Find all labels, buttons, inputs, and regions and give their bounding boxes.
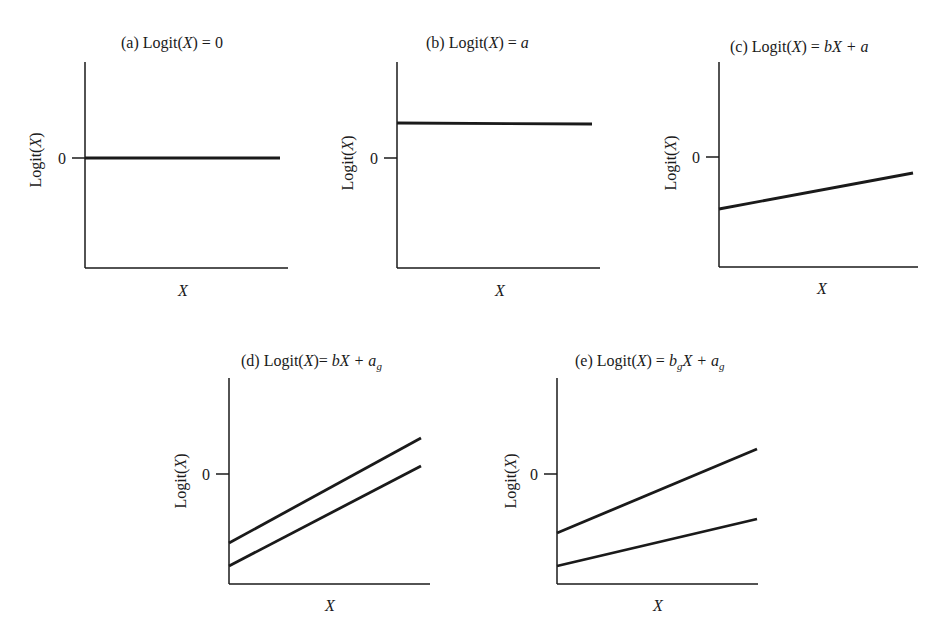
series-line <box>397 123 592 124</box>
panel-c-ylabel: Logit(X) <box>662 135 680 190</box>
panel-e-xlabel: X <box>652 597 664 614</box>
panel-e-title: (e) Logit(X) = bgX + ag <box>575 352 725 372</box>
panel-a-zero-label: 0 <box>58 150 66 167</box>
panel-c-xlabel: X <box>816 280 828 297</box>
panel-c <box>706 62 918 267</box>
panel-e <box>544 378 758 584</box>
panel-a <box>72 62 288 268</box>
panel-a-xlabel: X <box>177 282 189 299</box>
panel-a-ylabel: Logit(X) <box>27 132 45 187</box>
series-line-upper <box>557 449 757 533</box>
series-line <box>719 173 913 209</box>
panel-a-title: (a) Logit(X) = 0 <box>121 34 223 52</box>
panel-d-ylabel: Logit(X) <box>172 453 190 508</box>
panel-b-title: (b) Logit(X) = a <box>426 34 529 52</box>
panel-b-xlabel: X <box>494 282 506 299</box>
panel-b <box>384 62 600 268</box>
panel-c-title: (c) Logit(X) = bX + a <box>730 38 868 56</box>
series-line-lower <box>557 519 757 566</box>
panel-d-title: (d) Logit(X)= bX + ag <box>241 352 382 372</box>
panel-d-xlabel: X <box>324 597 336 614</box>
panel-d-zero-label: 0 <box>202 466 210 483</box>
panel-e-zero-label: 0 <box>530 466 538 483</box>
panel-e-ylabel: Logit(X) <box>502 453 520 508</box>
panel-b-ylabel: Logit(X) <box>339 135 357 190</box>
series-line-lower <box>229 466 421 566</box>
panel-c-zero-label: 0 <box>692 149 700 166</box>
panel-b-zero-label: 0 <box>370 150 378 167</box>
panel-d <box>216 378 430 584</box>
figure-canvas: (a) Logit(X) = 0 (b) Logit(X) = a (c) Lo… <box>0 0 938 623</box>
series-line-upper <box>229 438 421 543</box>
